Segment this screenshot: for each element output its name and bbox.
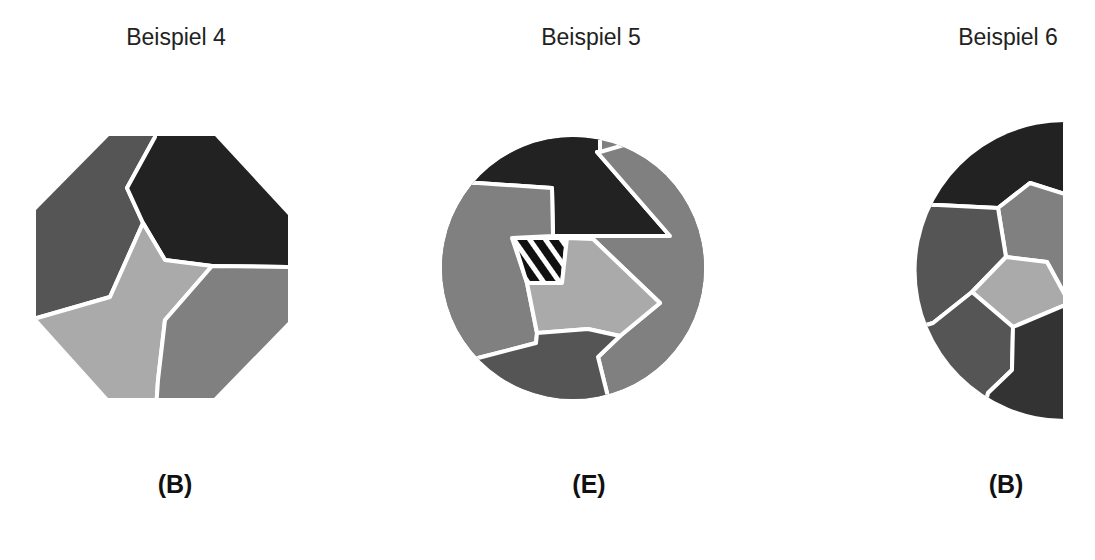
example-4-answer: (B) — [158, 470, 193, 499]
octagon-figure — [20, 120, 300, 410]
example-6-answer: (B) — [989, 470, 1024, 499]
example-5-answer: (E) — [572, 470, 605, 499]
circle-figure — [430, 120, 710, 420]
half-circle-figure — [910, 110, 1065, 430]
